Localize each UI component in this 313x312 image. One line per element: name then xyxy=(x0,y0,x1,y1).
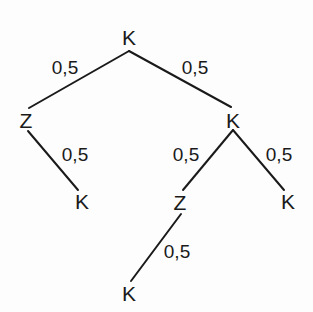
node-level1-right: K xyxy=(226,110,240,131)
node-root: K xyxy=(122,27,136,48)
node-level1-left: Z xyxy=(20,110,33,131)
edge-label-right-k-right-k: 0,5 xyxy=(266,145,292,164)
node-level2-right: K xyxy=(281,191,295,212)
edge-label-left-z-k: 0,5 xyxy=(62,145,88,164)
edge-label-root-right: 0,5 xyxy=(182,58,208,77)
node-level2-mid: Z xyxy=(174,192,187,213)
edge-root-to-left-z xyxy=(29,51,129,108)
node-level2-left: K xyxy=(75,191,89,212)
node-level3: K xyxy=(122,283,136,304)
edge-label-right-k-mid-z: 0,5 xyxy=(173,145,199,164)
edge-label-root-left: 0,5 xyxy=(52,58,78,77)
probability-tree-diagram: K Z K K Z K K 0,5 0,5 0,5 0,5 0,5 0,5 xyxy=(0,0,313,312)
edge-label-mid-z-bottom-k: 0,5 xyxy=(164,242,190,261)
edge-root-to-right-k xyxy=(129,51,231,107)
